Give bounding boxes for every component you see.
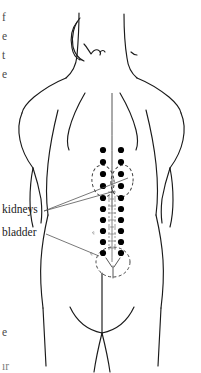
right-arm-contour (170, 113, 184, 168)
acupoint-dot (100, 159, 106, 165)
neck-right-contour (124, 14, 137, 78)
kidneys-label: kidneys (2, 204, 38, 216)
acupoint-dot (118, 217, 124, 223)
acupoint-dot (118, 171, 124, 177)
figure-page: f e t e e ır kidneys bladder (0, 0, 201, 373)
gluteal-fold-left (70, 307, 102, 333)
leg-split-left (94, 333, 102, 372)
left-scapula-contour (68, 93, 86, 150)
acupoint-dot (118, 228, 124, 234)
gluteal-fold-right (102, 307, 134, 333)
side-tick-marks (91, 232, 95, 255)
acupoint-dot (100, 239, 106, 245)
margin-text-top-line-4: e (2, 69, 7, 81)
left-arm-contour (19, 113, 33, 168)
torso-right-waist (146, 110, 158, 215)
body-outline-group (19, 13, 184, 372)
margin-text-bottom-line-1: e (2, 327, 7, 339)
leg-split-right (102, 333, 110, 372)
bladder-label: bladder (2, 227, 36, 239)
shoulder-left-contour (22, 78, 66, 113)
right-thigh-contour (158, 308, 161, 366)
right-arm-inner-crease (161, 168, 170, 223)
acupoint-dot (118, 183, 124, 189)
right-arm-inner-crease-2 (170, 168, 173, 227)
hair-strand-4 (100, 51, 105, 53)
acupoint-dot (100, 195, 106, 201)
acupoint-dot (118, 250, 124, 256)
leader-lines-group (44, 178, 128, 256)
left-paraspinal-points-group (100, 147, 106, 256)
spine-group (108, 93, 116, 262)
body-diagram-svg (0, 0, 201, 373)
acupoint-dot (100, 217, 106, 223)
left-thigh-contour (43, 308, 46, 366)
right-kidney-outline (109, 164, 135, 199)
torso-left-waist (47, 110, 59, 215)
acupoint-dot (100, 147, 106, 153)
acupoint-dot (100, 171, 106, 177)
acupoint-dot (100, 250, 106, 256)
margin-text-top-line-3: t (2, 50, 5, 62)
margin-text-top-line-1: f (2, 12, 6, 24)
right-scapula-contour (120, 93, 138, 150)
acupoint-dot (118, 147, 124, 153)
acupoint-dot (118, 195, 124, 201)
hip-left-contour (41, 215, 48, 308)
margin-text-top-line-2: e (2, 31, 7, 43)
shoulder-right-contour (137, 78, 181, 113)
acupoint-dot (118, 159, 124, 165)
right-neck-notch (131, 52, 137, 55)
bladder-leader-line (46, 234, 99, 256)
acupoint-dot (100, 206, 106, 212)
left-arm-inner-crease-2 (30, 168, 33, 227)
acupoint-dot (100, 228, 106, 234)
acupoint-dot (118, 206, 124, 212)
margin-text-bottom-line-2: ır (2, 361, 9, 373)
bladder-internal-mark (106, 258, 120, 278)
acupoint-dot (118, 239, 124, 245)
right-paraspinal-points-group (118, 147, 124, 256)
hair-strand-3 (84, 44, 100, 55)
hip-right-contour (156, 215, 163, 308)
